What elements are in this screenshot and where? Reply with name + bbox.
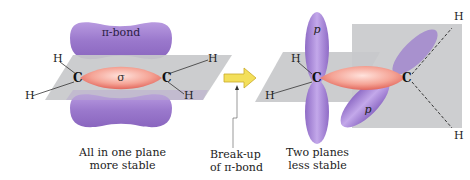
p-orbital-bottom (305, 80, 329, 144)
left-caption-line2: more stable (70, 159, 175, 172)
right-caption-line2: less stable (275, 159, 360, 172)
pi-bond-label: π-bond (100, 26, 142, 39)
hydrogen-right-4: H (454, 129, 464, 142)
carbon-left-2: C (162, 71, 172, 85)
arrow-caption-line2: of π-bond (210, 161, 270, 174)
p-label-top: p (312, 23, 322, 36)
arrow-caption-line1: Break-up (210, 148, 270, 161)
hydrogen-left-3: H (208, 52, 218, 65)
hydrogen-left-1: H (53, 52, 63, 65)
right-caption: Two planes less stable (275, 146, 360, 172)
hydrogen-left-2: H (25, 89, 35, 102)
arrow-caption: Break-up of π-bond (210, 148, 270, 174)
right-caption-line1: Two planes (275, 146, 360, 159)
left-caption: All in one plane more stable (70, 146, 175, 172)
right-molecule (255, 12, 462, 144)
carbon-right-2: C (402, 71, 412, 85)
carbon-left-1: C (73, 71, 83, 85)
transition-arrow (224, 68, 256, 148)
hydrogen-left-4: H (184, 89, 194, 102)
hydrogen-right-3: H (454, 10, 464, 23)
hydrogen-right-1: H (291, 52, 301, 65)
hydrogen-right-2: H (265, 89, 275, 102)
left-caption-line1: All in one plane (70, 146, 175, 159)
diagram: π-bond σ C C H H H H All in one plane mo… (0, 0, 470, 180)
p-label-bottom: p (363, 103, 373, 116)
sigma-label-left: σ (115, 71, 127, 84)
arrow-icon (224, 68, 256, 88)
carbon-right-1: C (312, 71, 322, 85)
